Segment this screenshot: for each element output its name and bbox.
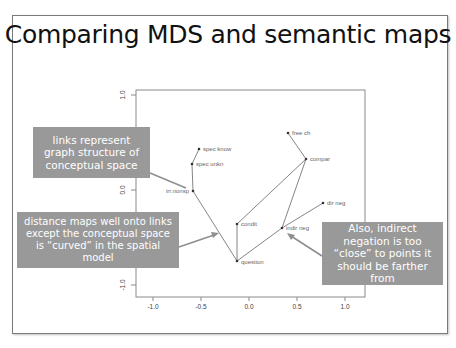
x-axis-ticks bbox=[153, 297, 345, 301]
arrow-links bbox=[150, 173, 186, 188]
svg-text:-0.5: -0.5 bbox=[195, 303, 207, 310]
point-spec-know bbox=[198, 148, 201, 151]
svg-text:-1.0: -1.0 bbox=[119, 279, 126, 291]
svg-text:spec know: spec know bbox=[203, 146, 232, 152]
svg-text:0.0: 0.0 bbox=[119, 185, 126, 194]
svg-text:irr.nonsp: irr.nonsp bbox=[166, 188, 190, 194]
svg-text:0.0: 0.0 bbox=[244, 303, 253, 310]
svg-text:1.0: 1.0 bbox=[340, 303, 349, 310]
arrow-indirect bbox=[291, 236, 322, 256]
callout-links: links represent graph structure of conce… bbox=[33, 127, 150, 178]
callout-indirect-negation: Also, indirect negation is too “close” t… bbox=[322, 222, 443, 285]
svg-text:1.0: 1.0 bbox=[119, 90, 126, 99]
point-irr-nonsp bbox=[192, 190, 195, 193]
svg-text:question: question bbox=[241, 259, 264, 265]
svg-text:0.5: 0.5 bbox=[292, 303, 301, 310]
graph-edges bbox=[192, 133, 323, 261]
point-labels: spec know spec unkn irr.nonsp condit que… bbox=[166, 130, 345, 265]
point-free-ch bbox=[287, 132, 290, 135]
point-condit bbox=[236, 223, 239, 226]
svg-text:-1.0: -1.0 bbox=[147, 303, 159, 310]
svg-text:free ch: free ch bbox=[292, 130, 310, 136]
svg-text:compar: compar bbox=[310, 156, 330, 162]
svg-text:condit: condit bbox=[241, 221, 257, 227]
point-indir-neg bbox=[281, 227, 284, 230]
callout-distance: distance maps well onto links except the… bbox=[17, 212, 179, 268]
point-question bbox=[236, 260, 239, 263]
x-axis-labels: -1.0 -0.5 0.0 0.5 1.0 bbox=[147, 303, 349, 310]
arrow-distance bbox=[179, 235, 214, 247]
svg-text:indir neg: indir neg bbox=[286, 225, 309, 231]
point-dir-neg bbox=[322, 202, 325, 205]
svg-text:dir neg: dir neg bbox=[327, 200, 345, 206]
point-spec-unkn bbox=[191, 163, 194, 166]
point-compar bbox=[305, 158, 308, 161]
svg-text:spec unkn: spec unkn bbox=[196, 161, 223, 167]
